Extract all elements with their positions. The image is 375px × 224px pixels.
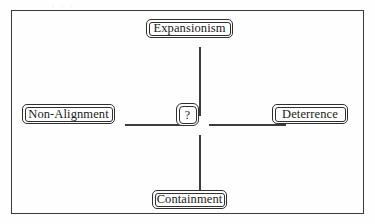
node-expansionism-body: Expansionism xyxy=(149,22,231,36)
node-center-label: ? xyxy=(185,109,190,121)
node-non-alignment-label: Non-Alignment xyxy=(28,108,108,121)
node-expansionism[interactable]: Expansionism xyxy=(146,19,233,38)
cropped-text-remnant: . . . xyxy=(0,0,375,9)
figure-page: . . . Expansionism Non-Alignment Deterre… xyxy=(0,0,375,224)
node-deterrence-body: Deterrence xyxy=(275,107,346,122)
node-containment[interactable]: Containment xyxy=(152,190,227,209)
node-deterrence-label: Deterrence xyxy=(282,108,338,121)
node-non-alignment-body: Non-Alignment xyxy=(25,107,113,122)
node-non-alignment[interactable]: Non-Alignment xyxy=(22,104,115,124)
connector-expansionism-to-center xyxy=(199,47,201,116)
node-containment-body: Containment xyxy=(155,193,225,207)
node-containment-label: Containment xyxy=(157,193,223,206)
connector-deterrence-to-center xyxy=(209,124,286,126)
node-expansionism-label: Expansionism xyxy=(153,22,225,35)
node-center-body: ? xyxy=(179,106,197,124)
node-deterrence[interactable]: Deterrence xyxy=(272,104,348,124)
node-center-unknown[interactable]: ? xyxy=(176,103,199,126)
